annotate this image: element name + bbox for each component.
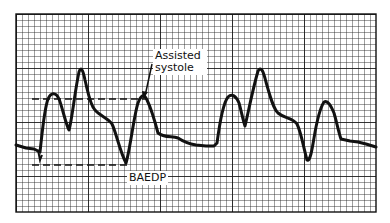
grid-major: [16, 14, 376, 212]
baedp-label: BAEDP: [127, 171, 168, 185]
assisted-systole-label: Assisted systole: [153, 49, 207, 75]
pressure-tracing-figure: Assisted systole BAEDP: [0, 0, 390, 223]
grid-paper: [0, 0, 390, 223]
assisted-systole-label-line2: systole: [155, 62, 205, 74]
